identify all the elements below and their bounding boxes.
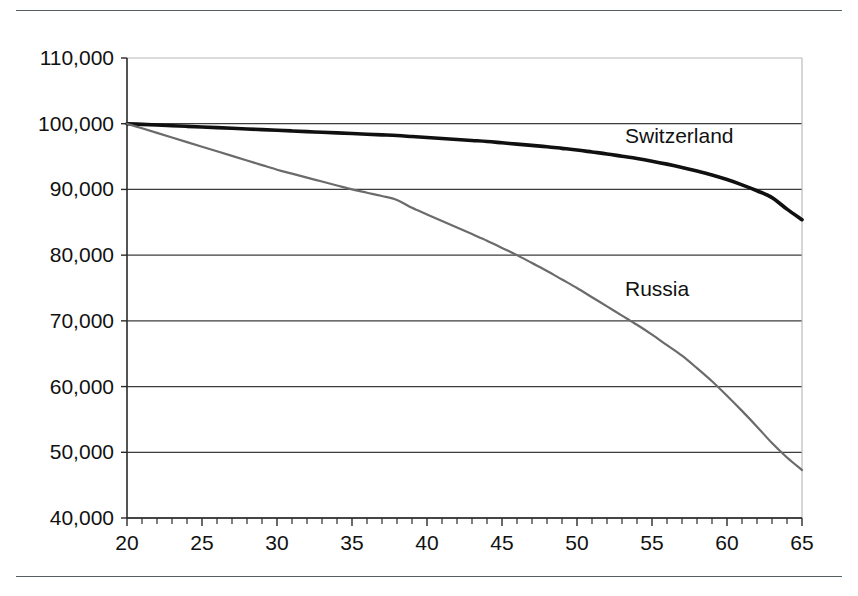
y-tick-label: 50,000: [50, 440, 114, 463]
x-tick-label: 50: [565, 531, 588, 554]
series-annotations: SwitzerlandRussia: [625, 124, 734, 299]
x-tick-label: 30: [265, 531, 288, 554]
series-label-switzerland: Switzerland: [625, 124, 734, 147]
y-tick-label: 100,000: [38, 112, 114, 135]
x-tick-label: 55: [640, 531, 663, 554]
x-tick-label: 45: [490, 531, 513, 554]
x-tick-label: 65: [790, 531, 813, 554]
line-chart: 40,00050,00060,00070,00080,00090,000100,…: [0, 0, 858, 596]
y-tick-label: 70,000: [50, 309, 114, 332]
y-tick-label: 60,000: [50, 375, 114, 398]
y-tick-label: 80,000: [50, 243, 114, 266]
y-tick-label: 90,000: [50, 177, 114, 200]
x-tick-label: 25: [190, 531, 213, 554]
chart-figure: 40,00050,00060,00070,00080,00090,000100,…: [0, 0, 858, 596]
y-axis-tick-labels: 40,00050,00060,00070,00080,00090,000100,…: [38, 46, 114, 529]
y-tick-label: 110,000: [40, 46, 114, 69]
series-line-russia: [127, 124, 802, 470]
series-label-russia: Russia: [625, 277, 690, 300]
data-series: [127, 124, 802, 470]
y-tick-label: 40,000: [50, 506, 114, 529]
x-tick-label: 40: [415, 531, 438, 554]
x-tick-label: 60: [715, 531, 738, 554]
x-axis-tick-labels: 20253035404550556065: [115, 531, 813, 554]
x-tick-label: 20: [115, 531, 138, 554]
x-tick-label: 35: [340, 531, 363, 554]
